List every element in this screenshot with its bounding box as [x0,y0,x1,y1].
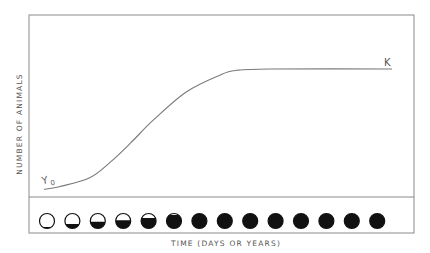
y-axis-label: NUMBER OF ANIMALS [15,73,24,175]
population-indicator-circle [243,214,258,229]
population-indicator-circle [116,214,131,229]
population-indicator-circle [40,214,55,229]
indicator-fill-level [116,220,131,228]
population-indicator-circle [167,214,182,229]
population-indicator-circle [65,214,80,229]
x-axis-label: TIME (DAYS OR YEARS) [170,239,281,248]
population-indicator-circle [90,214,105,229]
logistic-growth-figure: K Y 0 NUMBER OF ANIMALS TIME (DAYS OR YE… [0,0,430,253]
population-indicator-row [40,214,385,229]
population-indicator-circle [192,214,207,229]
population-indicator-circle [294,214,309,229]
initial-population-symbol: Y [40,174,50,186]
carrying-capacity-label: K [384,57,391,68]
indicator-fill-level [90,222,105,229]
growth-curve [44,69,392,189]
population-indicator-circle [217,214,232,229]
initial-population-subscript: 0 [50,179,56,188]
population-indicator-circle [141,214,156,229]
initial-population-label: Y 0 [40,173,56,189]
population-indicator-circle [370,214,385,229]
population-indicator-circle [268,214,283,229]
population-indicator-circle [319,214,334,229]
population-indicator-circle [344,214,359,229]
indicator-outline [40,214,55,229]
plot-frame [29,15,414,233]
